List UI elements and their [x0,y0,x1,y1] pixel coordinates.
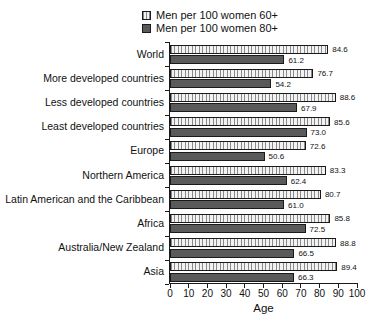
value-label: 80.7 [325,190,341,199]
value-label: 61.2 [288,56,304,65]
bar-80plus [170,176,287,185]
legend-item-80plus: Men per 100 women 80+ [142,22,278,35]
chart-legend: Men per 100 women 60+ Men per 100 women … [142,9,278,35]
bar-60plus [170,141,306,150]
y-axis-tick [165,187,169,188]
value-label: 88.6 [340,93,356,102]
y-axis-tick [165,139,169,140]
bar-60plus [170,117,330,126]
legend-swatch-hatched-icon [142,11,151,20]
value-label: 85.8 [334,214,350,223]
bar-80plus [170,128,307,137]
category-label: World [137,48,164,61]
bar-60plus [170,69,313,78]
value-label: 88.8 [340,239,356,248]
legend-swatch-solid-icon [142,24,151,33]
y-axis-tick [165,115,169,116]
y-axis-tick [165,211,169,212]
category-label: Asia [144,265,164,278]
legend-label-80plus: Men per 100 women 80+ [156,22,278,35]
bar-60plus [170,214,330,223]
y-axis-tick [165,42,169,43]
value-label: 66.5 [298,249,314,258]
value-label: 85.6 [334,118,350,127]
bar-60plus [170,45,328,54]
value-label: 61.0 [288,201,304,210]
bar-80plus [170,249,294,258]
bar-80plus [170,79,271,88]
value-label: 67.9 [301,104,317,113]
y-axis-tick [165,236,169,237]
category-label: Latin American and the Caribbean [5,193,164,206]
bar-80plus [170,152,265,161]
bar-60plus [170,93,336,102]
category-label: Africa [137,217,164,230]
bar-80plus [170,224,306,233]
bar-60plus [170,166,326,175]
value-label: 84.6 [332,45,348,54]
chart-figure: Men per 100 women 60+ Men per 100 women … [0,0,386,327]
category-label: Less developed countries [45,96,164,109]
x-axis-tick-label: 100 [345,288,369,299]
category-label: Europe [130,144,164,157]
value-label: 54.2 [275,80,291,89]
value-label: 89.4 [341,263,357,272]
y-axis-tick [165,284,169,285]
y-axis-tick [165,260,169,261]
value-label: 72.6 [310,142,326,151]
y-axis-tick [165,90,169,91]
category-label: Least developed countries [41,120,164,133]
bar-80plus [170,103,297,112]
bar-60plus [170,190,321,199]
value-label: 50.6 [269,152,285,161]
x-axis-title: Age [170,302,357,314]
bar-80plus [170,273,294,282]
category-label: More developed countries [43,72,164,85]
category-label: Northern America [82,169,164,182]
legend-item-60plus: Men per 100 women 60+ [142,9,278,22]
bar-80plus [170,55,284,64]
value-label: 76.7 [317,69,333,78]
bar-60plus [170,262,337,271]
y-axis-tick [165,66,169,67]
bar-80plus [170,200,284,209]
value-label: 66.3 [298,273,314,282]
value-label: 62.4 [291,177,307,186]
value-label: 83.3 [330,166,346,175]
value-label: 73.0 [311,128,327,137]
value-label: 72.5 [310,225,326,234]
y-axis-tick [165,163,169,164]
legend-label-60plus: Men per 100 women 60+ [156,9,278,22]
category-label: Australia/New Zealand [58,241,164,254]
bar-60plus [170,238,336,247]
